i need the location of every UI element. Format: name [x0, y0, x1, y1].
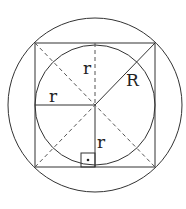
- label-r-bottom: r: [97, 132, 106, 152]
- label-r-top: r: [83, 58, 92, 78]
- right-angle-dot: [87, 159, 90, 162]
- diagram-svg: r r r R: [0, 0, 186, 209]
- label-R: R: [126, 70, 140, 90]
- geometry-diagram: r r r R: [0, 0, 186, 209]
- label-r-left: r: [49, 86, 58, 106]
